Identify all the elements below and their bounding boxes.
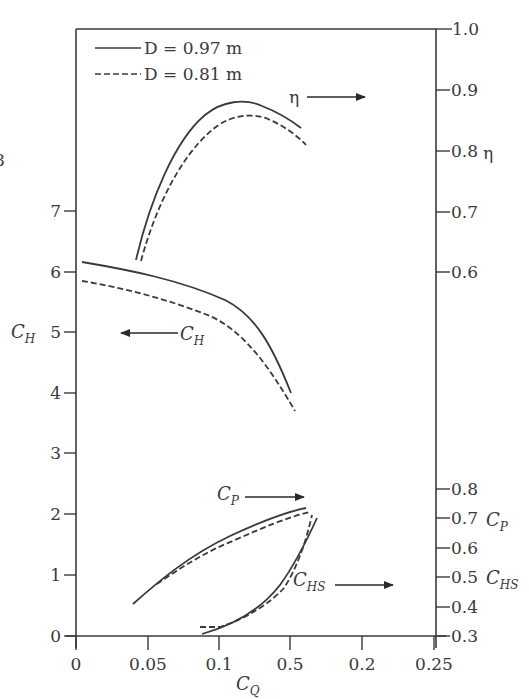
x-tick-label: 0.05 — [129, 654, 167, 674]
lower-tick-label: 0.4 — [451, 597, 478, 617]
x-tick-label: 0.2 — [348, 654, 375, 674]
x-ticks — [76, 636, 434, 650]
eta-tick-label: 0.6 — [451, 262, 478, 282]
lower-tick-label: 0.8 — [451, 479, 478, 499]
left-tick-label: 7 — [50, 201, 61, 221]
cp-curve-solid — [133, 508, 306, 604]
eta-tick-label: 1.0 — [452, 19, 479, 39]
eta-tick-label: 0.9 — [451, 80, 478, 100]
lower-tick-label: 0.7 — [451, 508, 478, 528]
legend: D = 0.97 m D = 0.81 m — [95, 38, 242, 84]
lower-tick-label: 0.6 — [451, 538, 478, 558]
x-axis-title: CQ — [236, 673, 260, 698]
eta-curve-dashed — [141, 116, 306, 261]
left-ticks — [64, 211, 76, 636]
left-tick-label: 5 — [50, 322, 61, 342]
left-axis-title: CH — [11, 321, 36, 346]
eta-tick-label: 0.8 — [451, 141, 478, 161]
cut-off-label: 8 — [0, 150, 5, 170]
x-tick-labels: 0 0.05 0.1 0.5 0.2 0.25 — [71, 654, 453, 674]
cp-annotation-label: CP — [217, 483, 240, 508]
x-tick-label: 0.1 — [205, 654, 232, 674]
right-lower-tick-labels: 0.8 0.7 0.6 0.5 0.4 0.3 — [451, 479, 478, 646]
left-tick-label: 6 — [50, 262, 61, 282]
eta-tick-label: 0.7 — [451, 202, 478, 222]
legend-dashed-label: D = 0.81 m — [144, 64, 242, 84]
right-upper-ticks — [436, 29, 452, 272]
lower-tick-label: 0.5 — [451, 567, 478, 587]
x-tick-label: 0 — [71, 654, 82, 674]
x-tick-label: 0.5 — [276, 654, 303, 674]
x-tick-label: 0.25 — [415, 654, 453, 674]
chs-annotation-label: CHS — [293, 569, 325, 594]
left-tick-label: 3 — [50, 443, 61, 463]
left-tick-label: 0 — [50, 626, 61, 646]
left-tick-label: 2 — [50, 504, 61, 524]
legend-solid-label: D = 0.97 m — [144, 38, 242, 58]
plot-frame — [66, 29, 446, 648]
curves — [82, 102, 317, 634]
left-tick-label: 1 — [50, 565, 61, 585]
annotations: η CH CP CHS — [121, 87, 393, 594]
right-axis-chs-title: CHS — [486, 567, 518, 592]
eta-curve-solid — [136, 102, 301, 260]
eta-annotation-label: η — [289, 87, 299, 107]
right-upper-tick-labels: 1.0 0.9 0.8 0.7 0.6 — [451, 19, 479, 282]
right-axis-eta-title: η — [483, 143, 493, 163]
left-tick-labels: 0 1 2 3 4 5 6 7 — [50, 201, 61, 646]
ch-annotation-label: CH — [180, 323, 205, 348]
chart: 0 0.05 0.1 0.5 0.2 0.25 CQ 0 1 2 3 4 5 6… — [0, 0, 529, 699]
left-tick-label: 4 — [50, 383, 61, 403]
ch-curve-dashed — [82, 281, 295, 411]
right-axis-cp-title: CP — [486, 509, 509, 534]
right-lower-ticks — [436, 489, 450, 636]
lower-tick-label: 0.3 — [451, 626, 478, 646]
